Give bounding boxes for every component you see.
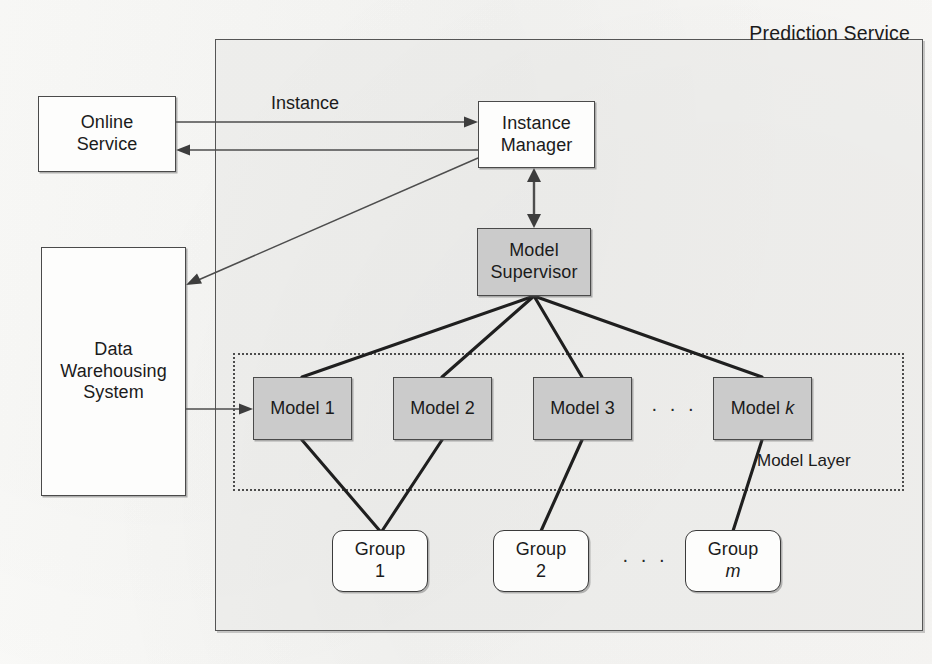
group-row-ellipsis: · · · [622, 548, 668, 571]
node-group-1[interactable]: Group 1 [332, 530, 428, 592]
node-group-2-line2: 2 [536, 561, 546, 583]
node-model-2-label: Model 2 [410, 398, 475, 420]
node-model-1-label: Model 1 [270, 398, 335, 420]
node-data-warehousing-system-line1: Data [94, 339, 132, 361]
node-instance-manager-line2: Manager [501, 135, 573, 157]
node-model-1[interactable]: Model 1 [253, 377, 352, 440]
prediction-service-label: Prediction Service [749, 22, 910, 45]
node-data-warehousing-system-line3: System [83, 382, 144, 404]
node-instance-manager-line1: Instance [502, 113, 571, 135]
node-data-warehousing-system-line2: Warehousing [60, 361, 167, 383]
node-model-supervisor[interactable]: Model Supervisor [477, 228, 591, 296]
node-group-m-symbol: m [725, 561, 740, 581]
node-group-1-line1: Group [355, 539, 406, 561]
node-instance-manager[interactable]: Instance Manager [478, 101, 595, 168]
model-layer-label: Model Layer [757, 451, 851, 471]
node-model-k-label-symbol: k [785, 398, 794, 418]
node-group-m-line2: m [725, 561, 740, 583]
node-group-2-line1: Group [516, 539, 567, 561]
instance-edge-label: Instance [271, 93, 339, 114]
node-model-3-label: Model 3 [550, 398, 615, 420]
node-online-service[interactable]: Online Service [38, 96, 176, 172]
node-model-supervisor-line2: Supervisor [490, 262, 577, 284]
node-online-service-line2: Service [77, 134, 138, 156]
node-model-k-label-prefix: Model [731, 398, 786, 418]
node-data-warehousing-system[interactable]: Data Warehousing System [41, 247, 186, 496]
node-model-2[interactable]: Model 2 [393, 377, 492, 440]
node-model-k[interactable]: Model k [713, 377, 812, 440]
node-model-k-label: Model k [731, 398, 795, 420]
node-model-3[interactable]: Model 3 [533, 377, 632, 440]
node-group-1-line2: 1 [375, 561, 385, 583]
node-group-2[interactable]: Group 2 [493, 530, 589, 592]
node-group-m-line1: Group [708, 539, 759, 561]
node-online-service-line1: Online [81, 112, 134, 134]
model-row-ellipsis: · · · [651, 397, 697, 420]
node-group-m[interactable]: Group m [685, 530, 781, 592]
node-model-supervisor-line1: Model [509, 240, 559, 262]
figure-canvas: Prediction Service Model Layer Instanc [0, 0, 932, 664]
